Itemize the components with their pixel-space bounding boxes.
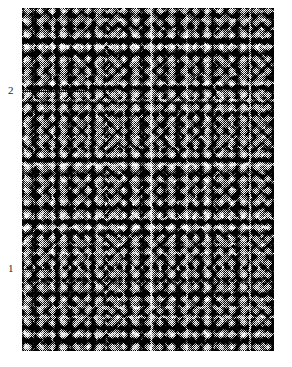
callout-leader-line-2 bbox=[22, 91, 86, 92]
micrograph-render-layer bbox=[22, 8, 274, 351]
micrograph-image bbox=[22, 8, 274, 351]
callout-leader-line-1 bbox=[22, 269, 52, 270]
callout-label-1: 1 bbox=[8, 263, 14, 274]
film-grain-layer-coarse bbox=[22, 8, 274, 351]
callout-label-2: 2 bbox=[8, 85, 14, 96]
figure-root: 2 1 bbox=[0, 0, 292, 367]
